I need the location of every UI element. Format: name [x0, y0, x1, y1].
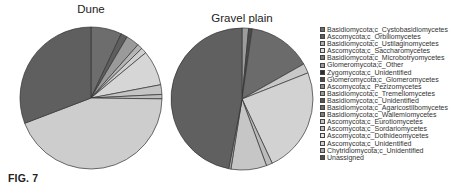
- legend-label: Basidiomycota;c_Cystobasidiomycetes: [327, 26, 448, 33]
- legend-label: Basidiomycota;c_Agaricostilbomycetes: [327, 104, 448, 111]
- legend-swatch: [320, 98, 325, 103]
- legend-item: Basidiomycota;c_Tremellomycetes: [320, 90, 448, 97]
- figure-label: FIG. 7: [8, 172, 38, 184]
- legend-item: Ascomycota;c_Sordariomycetes: [320, 125, 448, 132]
- legend-label: Basidiomycota;c_Tremellomycetes: [327, 90, 435, 97]
- legend-swatch: [320, 112, 325, 117]
- legend-item: Unassigned: [320, 154, 448, 161]
- legend-swatch: [320, 84, 325, 89]
- legend-swatch: [320, 48, 325, 53]
- legend-item: Glomeromycota;c_Glomeromycetes: [320, 76, 448, 83]
- legend-swatch: [320, 55, 325, 60]
- legend-swatch: [320, 148, 325, 153]
- legend-label: Ascomycota;c_Pezizomycetes: [327, 83, 422, 90]
- legend-label: Basidiomycota;c_Microbotryomycetes: [327, 54, 445, 61]
- legend-item: Basidiomycota;c_Agaricostilbomycetes: [320, 104, 448, 111]
- legend-label: Ascomycota;c_Orbiliomycetes: [327, 33, 421, 40]
- dune-title: Dune: [56, 3, 126, 15]
- legend-label: Ascomycota;c_Eurotiomycetes: [327, 118, 423, 125]
- legend-swatch: [320, 63, 325, 68]
- legend-item: Basidiomycota;c_Cystobasidiomycetes: [320, 26, 448, 33]
- legend-label: Chytridiomycota;c_Unidentified: [327, 147, 424, 154]
- legend-item: Ascomycota;c_Orbiliomycetes: [320, 33, 448, 40]
- legend-swatch: [320, 119, 325, 124]
- legend-swatch: [320, 34, 325, 39]
- legend-item: Glomeromycota;c_Other: [320, 61, 448, 68]
- legend-label: Ascomycota;c_Saccharomycetes: [327, 47, 430, 54]
- legend-item: Basidiomycota;c_Microbotryomycetes: [320, 54, 448, 61]
- dune-pie: [20, 27, 162, 169]
- legend-item: Chytridiomycota;c_Unidentified: [320, 147, 448, 154]
- gravel-plain-title: Gravel plain: [197, 12, 287, 24]
- legend-label: Basidiomycota;c_Unidentified: [327, 97, 419, 104]
- legend-swatch: [320, 141, 325, 146]
- legend-swatch: [320, 77, 325, 82]
- legend-label: Ascomycota;c_Sordariomycetes: [327, 125, 427, 132]
- legend-swatch: [320, 126, 325, 131]
- legend-label: Ascomycota;c_Unidentified: [327, 140, 411, 147]
- gravel-plain-pie: [171, 28, 313, 170]
- pie-slice: [171, 28, 242, 169]
- legend-label: Glomeromycota;c_Glomeromycetes: [327, 76, 439, 83]
- legend-label: Unassigned: [327, 154, 364, 161]
- legend-item: Basidiomycota;c_Ustilaginomycetes: [320, 40, 448, 47]
- legend-label: Zygomycota;c_Unidentified: [327, 69, 411, 76]
- legend-item: Ascomycota;c_Saccharomycetes: [320, 47, 448, 54]
- legend-item: Ascomycota;c_Unidentified: [320, 140, 448, 147]
- legend-swatch: [320, 155, 325, 160]
- legend-swatch: [320, 133, 325, 138]
- legend-swatch: [320, 70, 325, 75]
- legend-item: Ascomycota;c_Dothideomycetes: [320, 132, 448, 139]
- legend-item: Basidiomycota;c_Unidentified: [320, 97, 448, 104]
- legend-label: Ascomycota;c_Dothideomycetes: [327, 132, 429, 139]
- legend-swatch: [320, 41, 325, 46]
- legend-item: Ascomycota;c_Pezizomycetes: [320, 83, 448, 90]
- legend-item: Ascomycota;c_Eurotiomycetes: [320, 118, 448, 125]
- legend-swatch: [320, 105, 325, 110]
- legend-label: Basidiomycota;c_Wallemiomycetes: [327, 111, 436, 118]
- legend-swatch: [320, 27, 325, 32]
- legend: Basidiomycota;c_CystobasidiomycetesAscom…: [320, 26, 448, 161]
- legend-item: Zygomycota;c_Unidentified: [320, 69, 448, 76]
- legend-item: Basidiomycota;c_Wallemiomycetes: [320, 111, 448, 118]
- legend-swatch: [320, 91, 325, 96]
- legend-label: Basidiomycota;c_Ustilaginomycetes: [327, 40, 439, 47]
- legend-label: Glomeromycota;c_Other: [327, 61, 403, 68]
